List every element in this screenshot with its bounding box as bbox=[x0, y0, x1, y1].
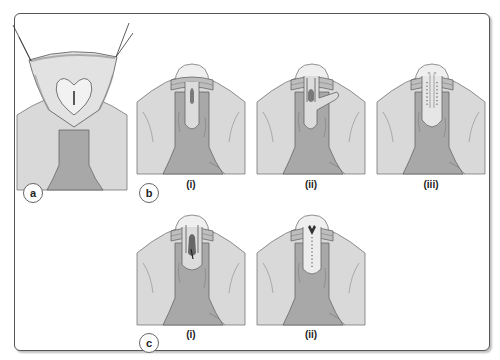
panel-c-ii-drawing bbox=[257, 215, 365, 325]
panel-label-c: c bbox=[139, 333, 159, 353]
panel-c-i-drawing bbox=[137, 215, 245, 325]
panel-a-drawing bbox=[13, 23, 133, 190]
panel-label-b: b bbox=[139, 183, 159, 203]
subpanel-label-b-i: (i) bbox=[171, 179, 211, 190]
panel-b-ii-drawing bbox=[257, 64, 365, 174]
subpanel-label-c-ii: (ii) bbox=[291, 329, 331, 340]
subpanel-label-b-ii: (ii) bbox=[291, 179, 331, 190]
panel-b-iii-drawing bbox=[377, 64, 485, 174]
subpanel-label-b-iii: (iii) bbox=[411, 179, 451, 190]
panel-label-a: a bbox=[23, 183, 43, 203]
subpanel-label-c-i: (i) bbox=[171, 329, 211, 340]
panel-b-i-drawing bbox=[137, 64, 245, 174]
